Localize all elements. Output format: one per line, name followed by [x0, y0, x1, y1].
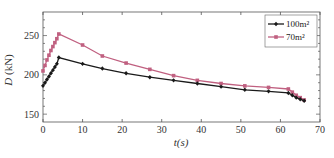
y-tick-label: 200	[24, 69, 39, 80]
legend: 100m²70m²	[265, 15, 317, 47]
data-point	[45, 58, 49, 62]
data-point	[243, 88, 247, 92]
x-tick-label: 40	[196, 124, 206, 135]
x-tick-label: 60	[275, 124, 285, 135]
line-chart: 010203040506070 150200250 D (kN) t(s) 10…	[0, 0, 334, 158]
data-point	[81, 43, 85, 47]
data-point	[55, 37, 59, 41]
x-tick-label: 50	[236, 124, 246, 135]
data-point	[53, 41, 57, 45]
data-point	[51, 45, 55, 49]
data-point	[57, 32, 61, 36]
data-point	[47, 53, 51, 57]
data-point	[267, 86, 271, 90]
data-point	[49, 49, 53, 53]
data-point	[124, 71, 128, 75]
legend-label: 100m²	[286, 19, 310, 29]
data-point	[172, 78, 176, 82]
data-point	[287, 87, 291, 91]
data-point	[57, 55, 61, 59]
data-point	[243, 84, 247, 88]
data-point	[100, 66, 104, 70]
x-tick-label: 0	[41, 124, 46, 135]
data-point	[267, 89, 271, 93]
data-point	[41, 69, 45, 73]
data-point	[101, 54, 105, 58]
x-tick-label: 10	[78, 124, 88, 135]
data-point	[148, 75, 152, 79]
x-tick-label: 30	[157, 124, 167, 135]
x-tick-label: 20	[117, 124, 127, 135]
x-axis-title: t(s)	[174, 136, 189, 149]
data-point	[81, 62, 85, 66]
data-point	[43, 64, 47, 68]
data-point	[172, 74, 176, 78]
y-axis-title: D (kN)	[2, 54, 15, 87]
legend-label: 70m²	[286, 32, 305, 42]
y-tick-label: 150	[24, 109, 39, 120]
y-tick-label: 250	[24, 30, 39, 41]
data-point	[124, 61, 128, 65]
x-tick-label: 70	[315, 124, 325, 135]
data-point	[148, 68, 152, 72]
